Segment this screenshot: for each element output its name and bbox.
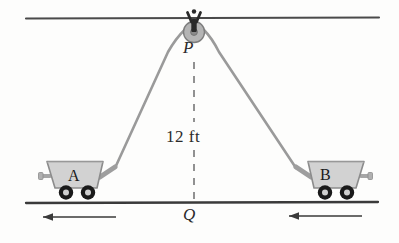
rope-left-segment	[115, 30, 185, 168]
pulley-cart-diagram: P Q 12 ft A B	[0, 0, 399, 243]
ground-line	[26, 202, 378, 203]
rope-right-segment	[204, 30, 296, 168]
cart-b-handle	[296, 167, 311, 177]
arrow-left-icon-cart-b	[289, 212, 362, 220]
ceiling-line	[26, 18, 379, 19]
cart-a-handle	[100, 167, 115, 177]
label-point-p: P	[183, 38, 193, 58]
diagram-canvas	[0, 0, 399, 243]
label-cart-a: A	[68, 167, 80, 185]
label-point-q: Q	[183, 205, 195, 225]
label-height-distance: 12 ft	[166, 127, 200, 147]
arrow-left-icon-cart-a	[43, 213, 116, 221]
label-cart-b: B	[320, 166, 331, 184]
cart-b-body	[308, 162, 364, 189]
cart-b[interactable]	[296, 162, 373, 200]
